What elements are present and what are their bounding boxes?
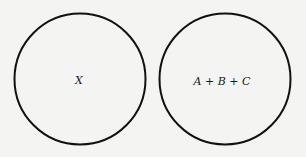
circle-x-label: X (75, 74, 83, 87)
diagram-canvas (0, 0, 306, 157)
circle-abc-label: A + B + C (194, 75, 251, 88)
